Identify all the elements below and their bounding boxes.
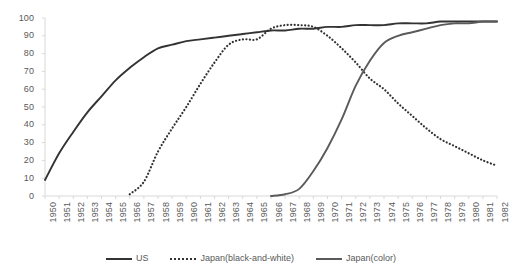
legend-label: US — [136, 253, 149, 263]
legend-swatch-icon — [316, 254, 342, 263]
legend-label: Japan(black-and-white) — [200, 253, 294, 263]
legend-item-japan-color[interactable]: Japan(color) — [316, 253, 396, 263]
legend-swatch-icon — [106, 254, 132, 263]
chart-legend: USJapan(black-and-white)Japan(color) — [0, 248, 502, 268]
series-lines — [45, 21, 497, 196]
legend-item-japan-black-and-white[interactable]: Japan(black-and-white) — [170, 253, 294, 263]
series-line-japan-black-and-white — [130, 25, 497, 194]
legend-swatch-icon — [170, 254, 196, 263]
legend-item-us[interactable]: US — [106, 253, 149, 263]
axis-lines — [42, 18, 497, 199]
series-line-japan-color — [271, 21, 497, 196]
plot-area: 1009080706050403020100 19501951195219531… — [0, 0, 502, 245]
legend-label: Japan(color) — [346, 253, 396, 263]
chart-canvas — [0, 0, 502, 245]
series-line-us — [45, 21, 497, 180]
